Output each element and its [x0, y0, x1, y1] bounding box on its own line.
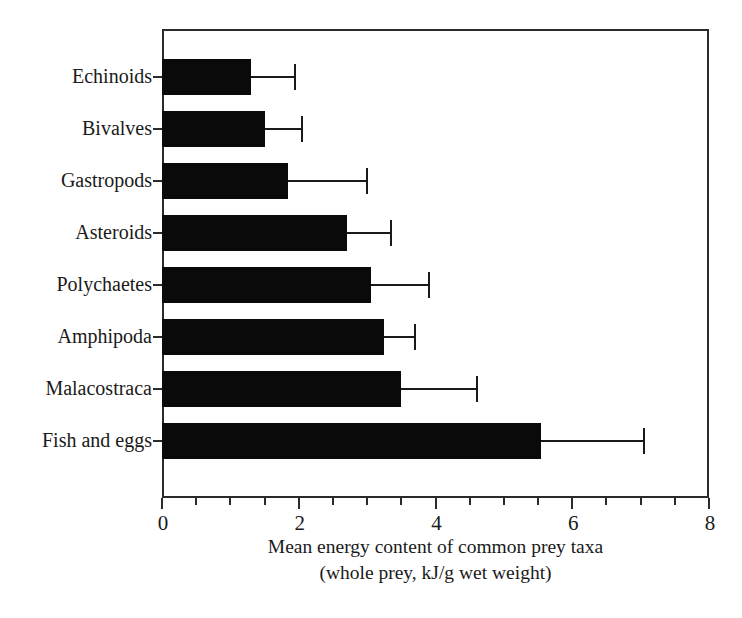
bar-row	[162, 51, 709, 103]
chart-figure: EchinoidsBivalvesGastropodsAsteroidsPoly…	[0, 0, 742, 618]
x-tick-minor	[674, 498, 676, 505]
x-axis-title: Mean energy content of common prey taxa …	[162, 534, 709, 586]
x-tick-label-2: 2	[280, 511, 320, 535]
x-tick-major	[298, 498, 300, 509]
bar-row	[162, 415, 709, 467]
error-bar-cap	[428, 272, 430, 298]
category-tick	[153, 232, 162, 234]
category-label-polychaetes: Polychaetes	[2, 274, 152, 294]
x-tick-minor	[264, 498, 266, 505]
error-bar-line	[541, 440, 644, 442]
error-bar-line	[251, 76, 295, 78]
x-tick-minor	[229, 498, 231, 505]
x-tick-major	[708, 498, 710, 509]
category-tick	[153, 76, 162, 78]
error-bar-cap	[414, 324, 416, 350]
x-tick-major	[435, 498, 437, 509]
bar-row	[162, 103, 709, 155]
error-bar-line	[384, 336, 415, 338]
x-tick-minor	[366, 498, 368, 505]
x-tick-minor	[503, 498, 505, 505]
category-label-fish-and-eggs: Fish and eggs	[2, 430, 152, 450]
x-tick-label-0: 0	[143, 511, 183, 535]
error-bar-cap	[390, 220, 392, 246]
x-axis-title-line-1: Mean energy content of common prey taxa	[162, 534, 709, 560]
bar-malacostraca	[162, 371, 401, 407]
bar-polychaetes	[162, 267, 371, 303]
category-tick	[153, 284, 162, 286]
x-tick-minor	[400, 498, 402, 505]
category-label-gastropods: Gastropods	[2, 170, 152, 190]
category-label-amphipoda: Amphipoda	[2, 326, 152, 346]
error-bar-line	[288, 180, 367, 182]
bar-row	[162, 207, 709, 259]
bar-gastropods	[162, 163, 288, 199]
bars-layer	[162, 29, 709, 498]
error-bar-cap	[294, 64, 296, 90]
x-tick-minor	[332, 498, 334, 505]
category-axis-labels: EchinoidsBivalvesGastropodsAsteroidsPoly…	[0, 29, 152, 498]
category-label-bivalves: Bivalves	[2, 118, 152, 138]
error-bar-cap	[301, 116, 303, 142]
x-tick-label-6: 6	[553, 511, 593, 535]
bar-fish-and-eggs	[162, 423, 541, 459]
bar-row	[162, 363, 709, 415]
x-tick-major	[161, 498, 163, 509]
category-tick	[153, 128, 162, 130]
x-tick-minor	[469, 498, 471, 505]
category-tick	[153, 440, 162, 442]
x-tick-label-4: 4	[417, 511, 457, 535]
bar-row	[162, 259, 709, 311]
category-tick	[153, 180, 162, 182]
x-tick-minor	[605, 498, 607, 505]
category-tick	[153, 336, 162, 338]
error-bar-line	[401, 388, 476, 390]
category-label-echinoids: Echinoids	[2, 66, 152, 86]
x-tick-minor	[195, 498, 197, 505]
bar-echinoids	[162, 59, 251, 95]
bar-asteroids	[162, 215, 347, 251]
x-tick-minor	[640, 498, 642, 505]
bar-row	[162, 311, 709, 363]
error-bar-cap	[476, 376, 478, 402]
bar-bivalves	[162, 111, 265, 147]
error-bar-line	[371, 284, 429, 286]
error-bar-line	[265, 128, 303, 130]
category-label-malacostraca: Malacostraca	[2, 378, 152, 398]
x-tick-minor	[537, 498, 539, 505]
error-bar-cap	[643, 428, 645, 454]
error-bar-cap	[366, 168, 368, 194]
bar-row	[162, 155, 709, 207]
error-bar-line	[347, 232, 391, 234]
x-axis-title-line-2: (whole prey, kJ/g wet weight)	[162, 560, 709, 586]
category-tick	[153, 388, 162, 390]
x-tick-major	[571, 498, 573, 509]
x-tick-label-8: 8	[690, 511, 730, 535]
category-label-asteroids: Asteroids	[2, 222, 152, 242]
bar-amphipoda	[162, 319, 384, 355]
